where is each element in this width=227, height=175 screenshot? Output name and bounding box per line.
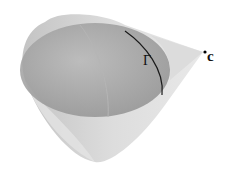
curve-label: Γ [143, 53, 151, 69]
ellipsoid [20, 23, 170, 117]
diagram-canvas [0, 0, 227, 175]
apex-label: c [207, 48, 214, 65]
